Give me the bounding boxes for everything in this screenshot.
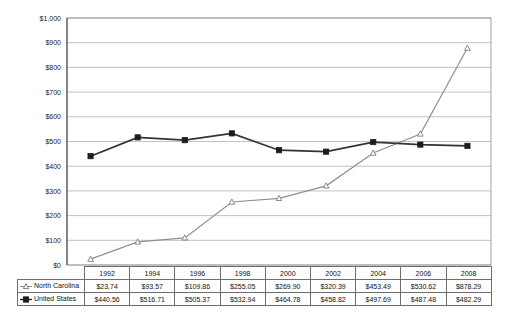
y-axis-tick-label: $600 — [45, 113, 61, 120]
table-value-cell: $464.78 — [265, 293, 310, 306]
data-point-marker — [135, 135, 140, 140]
series-lines-group — [91, 48, 468, 259]
plot-area: $0$100$200$300$400$500$600$700$800$900$1… — [0, 0, 507, 272]
table-year-header: 2002 — [310, 267, 355, 280]
table-year-header: 1994 — [130, 267, 175, 280]
table-year-header: 2000 — [265, 267, 310, 280]
data-point-marker — [229, 131, 234, 136]
data-point-marker — [88, 154, 93, 159]
data-point-marker — [182, 138, 187, 143]
y-axis-tick-label: $900 — [45, 39, 61, 46]
data-point-marker — [418, 142, 423, 147]
series-markers-group — [88, 45, 470, 261]
table-value-cell: $453.49 — [356, 280, 401, 293]
legend-row-label-north-carolina: North Carolina — [18, 280, 85, 293]
chart-data-table: 199219941996199820002002200420062008Nort… — [17, 266, 492, 306]
data-point-marker — [418, 131, 424, 136]
table-value-cell: $23.74 — [85, 280, 130, 293]
table-year-header: 1992 — [85, 267, 130, 280]
data-point-marker — [324, 149, 329, 154]
table-value-cell: $440.56 — [85, 293, 130, 306]
y-axis-tick-label: $1,000 — [40, 15, 62, 22]
data-point-marker — [276, 148, 281, 153]
data-point-marker — [465, 45, 471, 50]
data-point-marker — [465, 143, 470, 148]
table-year-header: 2008 — [446, 267, 491, 280]
table-value-cell: $458.82 — [310, 293, 355, 306]
table-value-cell: $482.29 — [446, 293, 491, 306]
line-chart-with-data-table: $0$100$200$300$400$500$600$700$800$900$1… — [0, 0, 507, 326]
series-line-north-carolina — [91, 48, 468, 259]
legend-row-label-united-states: United States — [18, 293, 85, 306]
table-header-row: 199219941996199820002002200420062008 — [18, 267, 492, 280]
y-axis-tick-label: $100 — [45, 237, 61, 244]
table-value-cell: $109.86 — [175, 280, 220, 293]
table-value-cell: $255.05 — [220, 280, 265, 293]
filled-square-legend-icon — [20, 296, 32, 303]
table-year-header: 2006 — [401, 267, 446, 280]
y-axis-tick-label: $300 — [45, 188, 61, 195]
table-value-cell: $487.48 — [401, 293, 446, 306]
table-value-cell: $93.57 — [130, 280, 175, 293]
y-axis-tick-label: $200 — [45, 212, 61, 219]
table-value-cell: $320.39 — [310, 280, 355, 293]
table-row: United States$440.56$516.71$505.37$532.9… — [18, 293, 492, 306]
table-value-cell: $269.90 — [265, 280, 310, 293]
y-axis-tick-label: $700 — [45, 89, 61, 96]
table-year-header: 2004 — [356, 267, 401, 280]
table-year-header: 1998 — [220, 267, 265, 280]
legend-label-text: United States — [34, 295, 76, 303]
data-point-marker — [371, 139, 376, 144]
y-axis-tick-labels: $0$100$200$300$400$500$600$700$800$900$1… — [40, 15, 62, 269]
gridlines-group — [67, 18, 491, 265]
y-axis-tick-label: $800 — [45, 64, 61, 71]
table-value-cell: $505.37 — [175, 293, 220, 306]
table-value-cell: $497.69 — [356, 293, 401, 306]
table-value-cell: $516.71 — [130, 293, 175, 306]
plot-svg: $0$100$200$300$400$500$600$700$800$900$1… — [0, 0, 507, 272]
table-corner-cell — [18, 267, 85, 280]
table-year-header: 1996 — [175, 267, 220, 280]
hollow-triangle-legend-icon — [20, 283, 32, 290]
table-value-cell: $530.62 — [401, 280, 446, 293]
table-value-cell: $532.94 — [220, 293, 265, 306]
legend-label-text: North Carolina — [34, 282, 79, 290]
table-value-cell: $878.29 — [446, 280, 491, 293]
y-axis-tick-label: $500 — [45, 138, 61, 145]
y-axis-tick-label: $400 — [45, 163, 61, 170]
table-row: North Carolina$23.74$93.57$109.86$255.05… — [18, 280, 492, 293]
data-point-marker — [323, 183, 329, 188]
